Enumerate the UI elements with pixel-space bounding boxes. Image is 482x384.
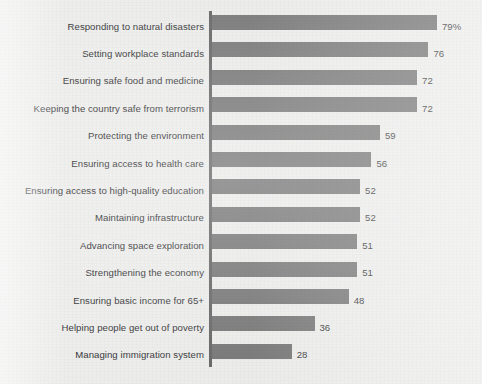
bar-value-label: 52 <box>365 212 376 223</box>
bar <box>212 15 437 30</box>
bar-category-label: Protecting the environment <box>8 130 204 141</box>
bar-row: Managing immigration system28 <box>0 340 482 367</box>
bar <box>212 316 315 331</box>
bar-row: Responding to natural disasters79% <box>0 11 482 38</box>
bar <box>212 207 360 222</box>
bar-row: Maintaining infrastructure52 <box>0 203 482 230</box>
bar-value-label: 59 <box>385 130 396 141</box>
bar-value-label: 79% <box>442 21 461 32</box>
bar <box>212 289 349 304</box>
bar-row: Protecting the environment59 <box>0 121 482 148</box>
bar-category-label: Managing immigration system <box>8 349 204 360</box>
bar <box>212 42 428 57</box>
bar-category-label: Helping people get out of poverty <box>8 322 204 333</box>
bar-row: Setting workplace standards76 <box>0 38 482 65</box>
bar-category-label: Setting workplace standards <box>8 48 204 59</box>
bar-row: Helping people get out of poverty36 <box>0 312 482 339</box>
bar <box>212 152 371 167</box>
bar-category-label: Ensuring access to high-quality educatio… <box>8 185 204 196</box>
bar-category-label: Keeping the country safe from terrorism <box>8 103 204 114</box>
bar-value-label: 56 <box>376 158 387 169</box>
bar-row: Ensuring basic income for 65+48 <box>0 285 482 312</box>
bar-value-label: 36 <box>320 322 331 333</box>
bar-category-label: Maintaining infrastructure <box>8 212 204 223</box>
bar <box>212 234 357 249</box>
bar-category-label: Advancing space exploration <box>8 240 204 251</box>
bar-row: Ensuring safe food and medicine72 <box>0 66 482 93</box>
bar-category-label: Ensuring basic income for 65+ <box>8 295 204 306</box>
bar-value-label: 52 <box>365 185 376 196</box>
bar-value-label: 72 <box>422 75 433 86</box>
bar <box>212 125 380 140</box>
bar-category-label: Ensuring access to health care <box>8 158 204 169</box>
bar-value-label: 72 <box>422 103 433 114</box>
bar-category-label: Strengthening the economy <box>8 267 204 278</box>
bar <box>212 70 417 85</box>
bar-value-label: 51 <box>362 240 373 251</box>
bar-chart: Responding to natural disasters79%Settin… <box>0 0 482 384</box>
bar-row: Ensuring access to health care56 <box>0 148 482 175</box>
bar-row: Ensuring access to high-quality educatio… <box>0 175 482 202</box>
bar-category-label: Responding to natural disasters <box>8 21 204 32</box>
bar-category-label: Ensuring safe food and medicine <box>8 75 204 86</box>
plot-area: Responding to natural disasters79%Settin… <box>0 11 482 367</box>
bar-value-label: 48 <box>354 295 365 306</box>
bar-row: Strengthening the economy51 <box>0 258 482 285</box>
bar-row: Keeping the country safe from terrorism7… <box>0 93 482 120</box>
bar <box>212 97 417 112</box>
bar <box>212 262 357 277</box>
bar-row: Advancing space exploration51 <box>0 230 482 257</box>
bar <box>212 344 292 359</box>
bar-value-label: 76 <box>433 48 444 59</box>
bar-value-label: 51 <box>362 267 373 278</box>
bar <box>212 179 360 194</box>
bar-value-label: 28 <box>297 349 308 360</box>
